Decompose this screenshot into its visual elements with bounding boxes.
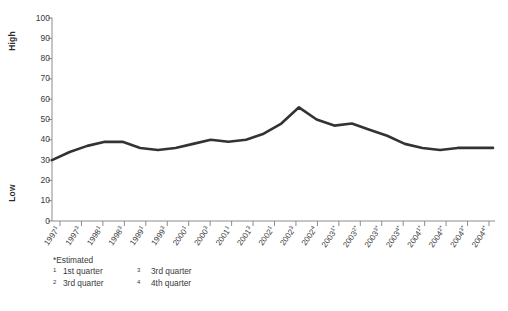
footnote-text: 4th quarter: [151, 279, 192, 287]
x-tick-label: 20031*: [319, 224, 341, 249]
line-chart: High Low 1009080706050403020100 19971199…: [0, 0, 508, 311]
x-tick-label-group: 20001: [170, 224, 190, 247]
x-tick-label: 20013: [235, 224, 255, 247]
footnote-estimated: *Estimated: [53, 256, 192, 264]
x-tick-label-group: 20013: [235, 224, 255, 247]
x-tick-label: 20044*: [469, 224, 491, 249]
data-series-line: [52, 107, 493, 160]
x-tick-label: 20033*: [362, 224, 384, 249]
x-tick-label-group: 20031*: [319, 224, 341, 249]
x-tick-year: 1998: [85, 227, 103, 247]
y-tick-label: 100: [24, 14, 50, 23]
x-tick-label: 20024: [299, 224, 319, 247]
y-tick-label: 60: [24, 95, 50, 104]
y-axis-tick-labels: 1009080706050403020100: [22, 0, 50, 311]
x-tick-label-group: 19973: [63, 224, 83, 247]
x-tick-label-group: 19983: [106, 224, 126, 247]
x-tick-label-group: 20044*: [469, 224, 491, 249]
footnotes-block: *Estimated 11st quarter33rd quarter23rd …: [53, 256, 192, 287]
footnote-superscript: 1: [53, 267, 63, 274]
footnote-text: 1st quarter: [63, 267, 137, 275]
y-axis-low-label: Low: [7, 173, 17, 213]
x-tick-label: 20041*: [405, 224, 427, 249]
x-tick-year: 1998: [107, 227, 125, 247]
x-tick-label: 19991: [127, 224, 147, 247]
x-tick-label-group: 19981: [84, 224, 104, 247]
y-axis-high-label: High: [7, 19, 17, 63]
footnote-text: 3rd quarter: [151, 267, 192, 275]
x-tick-label: 20023: [277, 224, 297, 247]
footnote-superscript: 2: [53, 279, 63, 286]
x-tick-year: 2004: [449, 229, 467, 249]
footnote-superscript: 3: [137, 267, 151, 274]
x-tick-year: 2002: [300, 227, 318, 247]
y-tick-label: 90: [24, 34, 50, 43]
footnote-superscript: 4: [137, 279, 151, 286]
x-tick-label: 20042*: [426, 224, 448, 249]
x-tick-label-group: 20042*: [426, 224, 448, 249]
y-tick-label: 70: [24, 74, 50, 83]
x-tick-label-group: 20041*: [405, 224, 427, 249]
x-tick-year: 2003: [363, 229, 381, 249]
x-tick-label: 19973: [63, 224, 83, 247]
x-tick-label-group: 20033*: [362, 224, 384, 249]
x-tick-year: 2002: [278, 227, 296, 247]
x-tick-year: 2004: [427, 229, 445, 249]
x-tick-year: 1999: [128, 227, 146, 247]
y-tick-label: 10: [24, 196, 50, 205]
x-tick-label: 19993: [149, 224, 169, 247]
y-tick-label: 20: [24, 176, 50, 185]
x-tick-year: 1999: [150, 227, 168, 247]
x-tick-label-group: 20032*: [340, 224, 362, 249]
x-tick-label: 20043*: [448, 224, 470, 249]
x-tick-year: 2004: [470, 229, 488, 249]
y-tick-label: 50: [24, 115, 50, 124]
x-tick-label-group: 20024: [299, 224, 319, 247]
x-tick-label: 20003: [192, 224, 212, 247]
x-tick-label-group: 19991: [127, 224, 147, 247]
x-tick-year: 2000: [192, 227, 210, 247]
footnote-text: 3rd quarter: [63, 279, 137, 287]
x-tick-year: 2003: [384, 229, 402, 249]
footnote-quarter-key: 11st quarter33rd quarter23rd quarter44th…: [53, 267, 192, 287]
x-tick-year: 2000: [171, 227, 189, 247]
x-tick-label-group: 20003: [192, 224, 212, 247]
x-tick-year: 2004: [406, 229, 424, 249]
x-tick-year: 1997: [64, 227, 82, 247]
x-tick-label-group: 20034*: [383, 224, 405, 249]
x-tick-label: 19983: [106, 224, 126, 247]
x-tick-label-group: 20043*: [448, 224, 470, 249]
x-tick-label: 20034*: [383, 224, 405, 249]
x-tick-label: 19981: [84, 224, 104, 247]
x-tick-label-group: 20011: [213, 224, 233, 247]
x-tick-label-group: 19993: [149, 224, 169, 247]
y-tick-label: 40: [24, 135, 50, 144]
x-tick-label: 20001: [170, 224, 190, 247]
x-tick-year: 2003: [341, 229, 359, 249]
x-tick-year: 2001: [214, 227, 232, 247]
x-tick-year: 2003: [320, 229, 338, 249]
x-tick-label-group: 20021: [256, 224, 276, 247]
y-tick-label: 80: [24, 54, 50, 63]
y-tick-label: 30: [24, 156, 50, 165]
x-tick-year: 2001: [235, 227, 253, 247]
x-tick-label: 20021: [256, 224, 276, 247]
x-tick-label-group: 20023: [277, 224, 297, 247]
x-tick-label: 20032*: [340, 224, 362, 249]
y-tick-label: 0: [24, 217, 50, 226]
x-tick-year: 2002: [257, 227, 275, 247]
x-tick-label: 20011: [213, 224, 233, 247]
